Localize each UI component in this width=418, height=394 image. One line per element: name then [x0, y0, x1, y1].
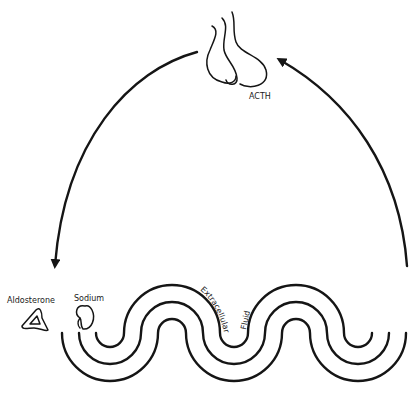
wave-outer	[62, 319, 406, 381]
kidney-icon	[77, 306, 94, 329]
wave-middle	[79, 302, 389, 364]
aldosterone-label: Aldosterone	[7, 296, 55, 305]
feedback-diagram: ACTH Aldosterone Sodium Extracellular Fl…	[0, 0, 418, 394]
arrow-gland-to-adrenal	[55, 52, 197, 265]
acth-label: ACTH	[249, 92, 271, 101]
gland-icon	[207, 12, 267, 87]
fluid-label: Fluid	[239, 310, 252, 331]
diagram-svg: ACTH Aldosterone Sodium Extracellular Fl…	[0, 0, 418, 394]
wave-inner	[96, 285, 372, 347]
extracellular-fluid-bands	[62, 285, 406, 381]
adrenal-icon	[22, 309, 48, 331]
sodium-label: Sodium	[74, 294, 104, 303]
arrow-fluid-to-gland	[280, 60, 407, 266]
